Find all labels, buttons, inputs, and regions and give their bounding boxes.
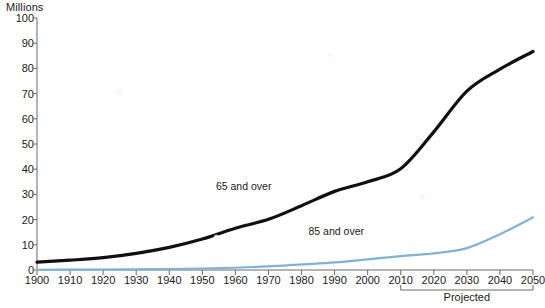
projected-label: Projected bbox=[444, 291, 490, 303]
series-label-65-and-over: 65 and over bbox=[216, 180, 271, 192]
series-label-85-and-over: 85 and over bbox=[309, 225, 364, 237]
chart-series bbox=[37, 52, 533, 270]
projected-bracket bbox=[401, 285, 533, 290]
chart-axes bbox=[33, 18, 533, 275]
